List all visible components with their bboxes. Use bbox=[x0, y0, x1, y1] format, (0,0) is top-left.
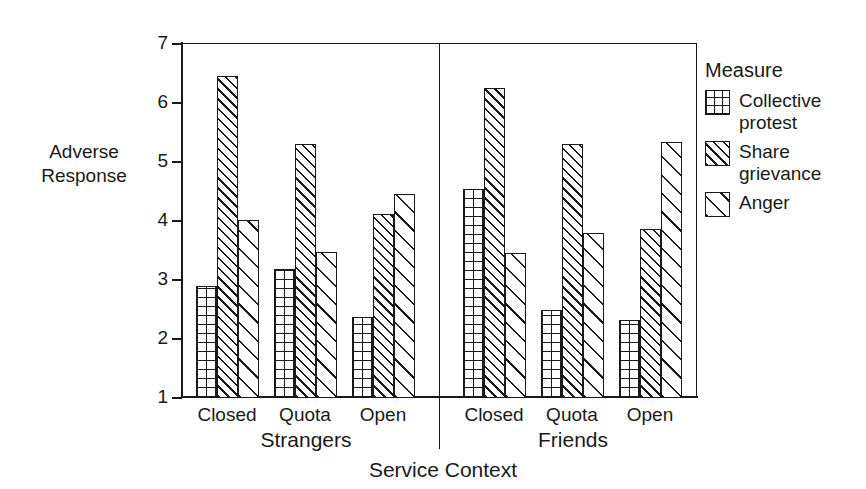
y-tick-label-4: 4 bbox=[138, 210, 168, 229]
y-tick-5 bbox=[172, 161, 182, 163]
panel-friends bbox=[449, 44, 697, 398]
bar-friends-open-anger bbox=[661, 142, 682, 398]
x-label-friends-open: Open bbox=[610, 404, 690, 425]
bar-strangers-closed-anger bbox=[238, 220, 259, 398]
legend-label-anger: Anger bbox=[739, 192, 790, 214]
bar-group-friends-quota bbox=[541, 44, 613, 398]
bar-friends-quota-collective-protest bbox=[541, 310, 562, 399]
y-tick-label-5: 5 bbox=[138, 151, 168, 170]
y-tick-label-7: 7 bbox=[138, 33, 168, 52]
y-tick-6 bbox=[172, 102, 182, 104]
bar-friends-quota-share-grievance bbox=[562, 144, 583, 398]
x-axis-title: Service Context bbox=[283, 458, 603, 481]
x-label-friends-closed: Closed bbox=[454, 404, 534, 425]
panel-divider bbox=[439, 43, 440, 449]
bar-chart-figure: Adverse Response 7654321 ClosedQuotaOpen… bbox=[0, 0, 866, 489]
panel-label-strangers: Strangers bbox=[226, 428, 386, 451]
legend-item-anger: Anger bbox=[705, 192, 860, 217]
bar-friends-closed-share-grievance bbox=[484, 88, 505, 398]
diagonal-dense-swatch-icon bbox=[705, 141, 730, 166]
x-label-strangers-open: Open bbox=[343, 404, 423, 425]
bar-group-friends-closed bbox=[463, 44, 535, 398]
bar-strangers-open-collective-protest bbox=[352, 317, 373, 398]
bar-strangers-quota-share-grievance bbox=[295, 144, 316, 398]
bar-strangers-closed-share-grievance bbox=[217, 76, 238, 398]
y-tick-label-1: 1 bbox=[138, 387, 168, 406]
y-tick-2 bbox=[172, 338, 182, 340]
y-tick-1 bbox=[172, 397, 182, 399]
bar-strangers-open-share-grievance bbox=[373, 214, 394, 398]
y-tick-3 bbox=[172, 279, 182, 281]
panel-strangers bbox=[182, 44, 430, 398]
panel-label-friends: Friends bbox=[493, 428, 653, 451]
bar-friends-open-share-grievance bbox=[640, 229, 661, 398]
bar-group-friends-open bbox=[619, 44, 691, 398]
bar-group-strangers-open bbox=[352, 44, 424, 398]
y-tick-label-6: 6 bbox=[138, 92, 168, 111]
x-label-strangers-closed: Closed bbox=[187, 404, 267, 425]
legend-label-collective-protest: Collective protest bbox=[739, 90, 855, 134]
diagonal-sparse-swatch-icon bbox=[705, 192, 730, 217]
x-label-strangers-quota: Quota bbox=[265, 404, 345, 425]
y-tick-4 bbox=[172, 220, 182, 222]
y-tick-label-2: 2 bbox=[138, 328, 168, 347]
x-label-friends-quota: Quota bbox=[532, 404, 612, 425]
bar-strangers-open-anger bbox=[394, 194, 415, 398]
bar-friends-open-collective-protest bbox=[619, 320, 640, 398]
legend: Measure Collective protest Share grievan… bbox=[705, 58, 860, 224]
bar-strangers-closed-collective-protest bbox=[196, 286, 217, 398]
bar-friends-closed-anger bbox=[505, 253, 526, 398]
grid-swatch-icon bbox=[705, 90, 730, 115]
bar-strangers-quota-collective-protest bbox=[274, 269, 295, 398]
legend-title: Measure bbox=[705, 58, 860, 82]
legend-item-collective-protest: Collective protest bbox=[705, 90, 860, 134]
bar-group-strangers-closed bbox=[196, 44, 268, 398]
y-tick-7 bbox=[172, 43, 182, 45]
bar-friends-quota-anger bbox=[583, 233, 604, 398]
legend-item-share-grievance: Share grievance bbox=[705, 141, 860, 185]
bar-group-strangers-quota bbox=[274, 44, 346, 398]
bar-strangers-quota-anger bbox=[316, 252, 337, 398]
y-tick-label-3: 3 bbox=[138, 269, 168, 288]
bar-friends-closed-collective-protest bbox=[463, 189, 484, 398]
legend-label-share-grievance: Share grievance bbox=[739, 141, 855, 185]
